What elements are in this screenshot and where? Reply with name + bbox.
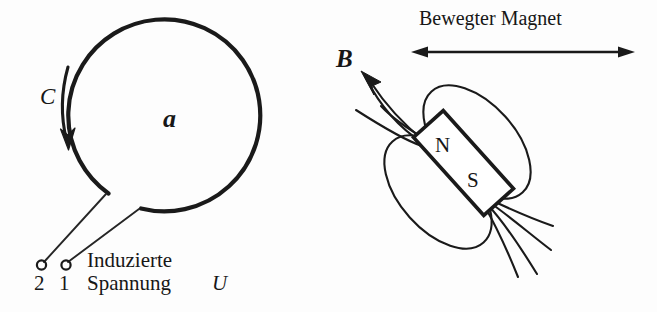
terminal-post-2 (37, 260, 46, 269)
loop-area-label: a (163, 105, 176, 132)
magnet-group (356, 47, 635, 278)
induction-figure: C a B N S Bewegter Magnet 2 1 Induzierte… (0, 0, 657, 312)
field-line-n-4 (356, 110, 422, 146)
bar-magnet-body (414, 111, 514, 216)
terminal-label-1: 1 (59, 272, 70, 294)
motion-arrow-head-left (411, 47, 428, 58)
field-lines-south (484, 200, 553, 277)
south-pole-label: S (467, 169, 479, 191)
current-label: C (40, 85, 55, 109)
moving-magnet-caption: Bewegter Magnet (419, 8, 562, 29)
terminal-post-1 (61, 260, 70, 269)
induced-voltage-line2: Spannung (87, 272, 171, 294)
north-pole-label: N (435, 134, 450, 156)
voltage-symbol-label: U (212, 272, 227, 294)
field-line-s-1 (491, 200, 553, 226)
induced-voltage-line1: Induzierte (87, 249, 172, 271)
conducting-loop-group (37, 19, 260, 269)
field-line-s-4 (484, 205, 518, 277)
field-line-s-2 (489, 202, 551, 250)
motion-arrow-head-right (618, 47, 635, 58)
motion-arrow (411, 47, 635, 58)
magnetic-field-label: B (336, 46, 353, 72)
terminal-label-2: 2 (34, 272, 45, 294)
